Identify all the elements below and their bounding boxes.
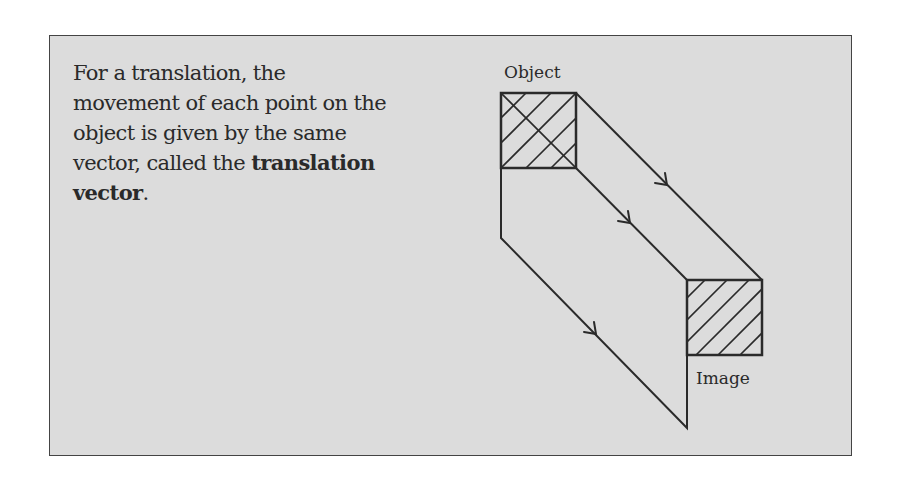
lower-vector-line	[501, 168, 687, 428]
translation-diagram: Object Image	[0, 0, 900, 485]
object-square	[501, 93, 576, 168]
image-square	[687, 280, 815, 355]
object-label: Object	[504, 62, 561, 82]
middle-vector-line	[576, 168, 687, 280]
image-label: Image	[696, 368, 750, 388]
arrowheads	[584, 173, 667, 334]
top-vector-line	[576, 93, 762, 280]
